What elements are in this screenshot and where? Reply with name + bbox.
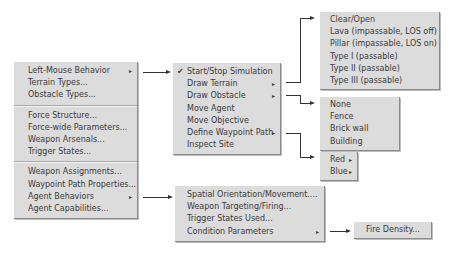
menu-item-label: Red bbox=[330, 155, 345, 164]
menu-item-pillar[interactable]: Pillar (impassable, LOS on) bbox=[320, 38, 439, 50]
menu-item-building[interactable]: Building bbox=[320, 136, 399, 148]
submenu-arrow-icon: ▸ bbox=[129, 65, 132, 77]
menu-item-blue[interactable]: Blue▸ bbox=[320, 166, 357, 178]
menu-item-brick-wall[interactable]: Brick wall bbox=[320, 123, 399, 135]
menu-item-red[interactable]: Red▸ bbox=[320, 154, 357, 166]
submenu-arrow-icon: ▸ bbox=[349, 166, 352, 178]
submenu-arrow-icon: ▸ bbox=[129, 191, 132, 203]
terrain-menu: Clear/Open Lava (impassable, LOS off) Pi… bbox=[320, 12, 440, 90]
menu-item-draw-obstacle[interactable]: Draw Obstacle▸ bbox=[173, 90, 280, 102]
submenu-arrow-icon: ▸ bbox=[272, 78, 275, 90]
menu-item-fence[interactable]: Fence bbox=[320, 111, 399, 123]
menu-item-agent-behaviors[interactable]: Agent Behaviors▸ bbox=[14, 191, 137, 203]
menu-item-fire-density[interactable]: Fire Density... bbox=[354, 224, 431, 236]
menu-item-label: Draw Terrain bbox=[187, 79, 238, 88]
menu-item-label: Agent Behaviors bbox=[28, 192, 94, 201]
left-mouse-behavior-menu: ✔Start/Stop Simulation Draw Terrain▸ Dra… bbox=[173, 63, 281, 155]
menu-item-label: Left-Mouse Behavior bbox=[28, 66, 110, 75]
menu-item-type-iii[interactable]: Type III (passable) bbox=[320, 75, 439, 87]
menu-item-weapon-arsenals[interactable]: Weapon Arsenals... bbox=[14, 134, 137, 146]
menu-item-force-wide-parameters[interactable]: Force-wide Parameters... bbox=[14, 122, 137, 134]
submenu-arrow-icon: ▸ bbox=[272, 127, 275, 139]
menu-item-label: Condition Parameters bbox=[187, 227, 274, 236]
menu-item-draw-terrain[interactable]: Draw Terrain▸ bbox=[173, 78, 280, 90]
menu-item-force-structure[interactable]: Force Structure... bbox=[14, 110, 137, 122]
menu-item-condition-parameters[interactable]: Condition Parameters▸ bbox=[175, 226, 324, 238]
menu-item-spatial-orientation[interactable]: Spatial Orientation/Movement.... bbox=[175, 189, 324, 201]
menu-separator bbox=[14, 161, 137, 163]
agent-behaviors-menu: Spatial Orientation/Movement.... Weapon … bbox=[175, 186, 325, 242]
submenu-arrow-icon: ▸ bbox=[272, 90, 275, 102]
menu-item-waypoint-path-properties[interactable]: Waypoint Path Properties... bbox=[14, 179, 137, 191]
menu-separator bbox=[14, 105, 137, 107]
condition-parameters-menu: Fire Density... bbox=[354, 222, 432, 239]
team-menu: Red▸ Blue▸ bbox=[320, 152, 358, 181]
menu-item-trigger-states-used[interactable]: Trigger States Used... bbox=[175, 213, 324, 225]
menu-item-type-i[interactable]: Type I (passable) bbox=[320, 51, 439, 63]
submenu-arrow-icon: ▸ bbox=[316, 226, 319, 238]
main-menu: Left-Mouse Behavior▸ Terrain Types... Ob… bbox=[14, 62, 138, 219]
menu-item-trigger-states[interactable]: Trigger States... bbox=[14, 146, 137, 158]
menu-item-label: Start/Stop Simulation bbox=[187, 67, 273, 76]
menu-item-label: Blue bbox=[330, 167, 348, 176]
menu-item-agent-capabilities[interactable]: Agent Capabilities... bbox=[14, 203, 137, 215]
menu-item-obstacle-types[interactable]: Obstacle Types... bbox=[14, 89, 137, 101]
menu-item-move-objective[interactable]: Move Objective bbox=[173, 115, 280, 127]
menu-item-left-mouse-behavior[interactable]: Left-Mouse Behavior▸ bbox=[14, 65, 137, 77]
menu-item-none[interactable]: None bbox=[320, 99, 399, 111]
menu-item-terrain-types[interactable]: Terrain Types... bbox=[14, 77, 137, 89]
menu-item-define-waypoint-path[interactable]: Define Waypoint Path▸ bbox=[173, 127, 280, 139]
menu-item-start-stop-simulation[interactable]: ✔Start/Stop Simulation bbox=[173, 66, 280, 78]
menu-item-weapon-assignments[interactable]: Weapon Assignments... bbox=[14, 166, 137, 178]
menu-item-label: Draw Obstacle bbox=[187, 91, 246, 100]
menu-item-clear-open[interactable]: Clear/Open bbox=[320, 14, 439, 26]
checkmark-icon: ✔ bbox=[177, 66, 184, 78]
menu-item-move-agent[interactable]: Move Agent bbox=[173, 103, 280, 115]
obstacle-menu: None Fence Brick wall Building bbox=[320, 97, 400, 151]
menu-item-type-ii[interactable]: Type II (passable) bbox=[320, 63, 439, 75]
submenu-arrow-icon: ▸ bbox=[349, 154, 352, 166]
menu-item-inspect-site[interactable]: Inspect Site bbox=[173, 139, 280, 151]
menu-item-weapon-targeting[interactable]: Weapon Targeting/Firing... bbox=[175, 201, 324, 213]
menu-item-label: Define Waypoint Path bbox=[187, 128, 273, 137]
menu-item-lava[interactable]: Lava (impassable, LOS off) bbox=[320, 26, 439, 38]
